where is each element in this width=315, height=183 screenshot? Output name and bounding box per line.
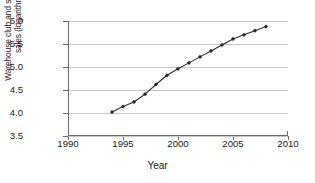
data-point-marker bbox=[110, 110, 114, 114]
x-tick-label: 1995 bbox=[103, 139, 143, 149]
data-point-marker bbox=[220, 43, 224, 47]
x-tick-label: 2010 bbox=[268, 139, 308, 149]
x-axis-title: Year bbox=[0, 160, 315, 171]
y-tick-label: 4.0 bbox=[0, 108, 23, 118]
y-tick-label: 5.0 bbox=[0, 62, 23, 72]
y-tick-label: 4.5 bbox=[0, 85, 23, 95]
x-tick-label: 2005 bbox=[213, 139, 253, 149]
data-series-group bbox=[68, 21, 288, 136]
data-point-marker bbox=[231, 37, 235, 41]
data-point-marker bbox=[198, 55, 202, 59]
series-line bbox=[112, 27, 266, 113]
data-point-marker bbox=[121, 104, 125, 108]
plot-area bbox=[68, 21, 288, 136]
x-tick-mark bbox=[288, 136, 289, 140]
data-point-marker bbox=[187, 61, 191, 65]
gridline bbox=[68, 136, 288, 137]
x-tick-label: 2000 bbox=[158, 139, 198, 149]
data-point-marker bbox=[264, 24, 268, 28]
chart-figure: Warehouse club and superstore sales (log… bbox=[0, 0, 315, 183]
y-tick-label: 6.0 bbox=[0, 16, 23, 26]
x-tick-label: 1990 bbox=[48, 139, 88, 149]
y-tick-label: 5.5 bbox=[0, 39, 23, 49]
data-point-marker bbox=[253, 29, 257, 33]
data-point-marker bbox=[209, 49, 213, 53]
y-tick-label: 3.5 bbox=[0, 131, 23, 141]
data-point-marker bbox=[242, 33, 246, 37]
